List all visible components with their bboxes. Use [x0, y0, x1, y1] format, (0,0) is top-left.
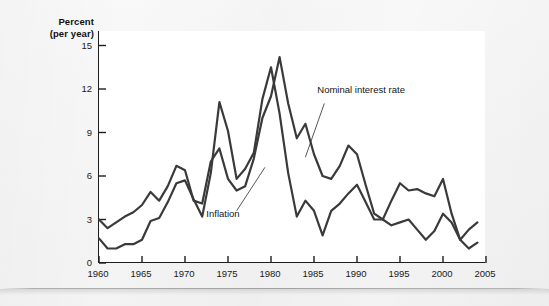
x-tick-label: 1960	[78, 269, 118, 279]
y-tick-label: 3	[66, 215, 92, 225]
x-tick-label: 2000	[422, 269, 462, 279]
series-line-inflation	[99, 67, 477, 248]
screenshot-page: Percent (per year) 03691215 196019651970…	[0, 0, 549, 306]
x-tick-label: 1965	[121, 269, 161, 279]
x-tick-label: 1980	[250, 269, 290, 279]
y-tick-label: 9	[66, 128, 92, 138]
y-tick-label: 12	[66, 84, 92, 94]
y-axis-ticks	[99, 46, 106, 264]
plot-area	[98, 31, 485, 263]
x-tick-label: 2005	[465, 269, 505, 279]
series-label-nominal-interest-rate: Nominal interest rate	[317, 84, 405, 95]
data-series-group	[99, 57, 477, 248]
x-tick-label: 1995	[379, 269, 419, 279]
y-axis-title-line1: Percent	[14, 16, 94, 28]
x-tick-label: 1985	[293, 269, 333, 279]
y-tick-label: 6	[66, 171, 92, 181]
series-label-inflation: Inflation	[206, 208, 239, 219]
y-tick-label: 0	[66, 258, 92, 268]
x-tick-label: 1970	[164, 269, 204, 279]
chart-figure: Percent (per year) 03691215 196019651970…	[0, 0, 549, 290]
y-tick-label: 15	[66, 41, 92, 51]
x-tick-label: 1975	[207, 269, 247, 279]
y-axis-title-line2: (per year)	[14, 28, 94, 40]
chart-canvas	[99, 31, 486, 263]
page-bottom-shadow	[0, 289, 549, 295]
x-axis-ticks	[99, 256, 486, 263]
x-tick-label: 1990	[336, 269, 376, 279]
